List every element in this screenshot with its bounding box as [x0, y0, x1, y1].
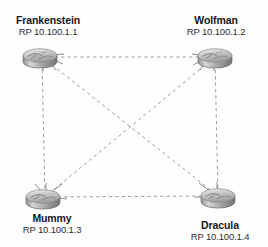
router-label-wolfman: Wolfman RP 10.100.1.2	[187, 14, 246, 38]
link-frankenstein-mummy	[42, 57, 45, 197]
link-mummy-dracula	[45, 196, 218, 197]
router-node-dracula[interactable]	[195, 181, 241, 211]
router-name-mummy: Mummy	[23, 212, 82, 224]
router-label-mummy: Mummy RP 10.100.1.3	[23, 212, 82, 236]
router-icon	[195, 181, 241, 211]
link-wolfman-mummy	[45, 57, 215, 197]
router-rp-frankenstein: RP 10.100.1.1	[16, 26, 80, 37]
router-name-frankenstein: Frankenstein	[16, 14, 80, 26]
router-node-mummy[interactable]	[22, 182, 68, 212]
router-icon	[19, 42, 65, 72]
router-icon	[192, 42, 238, 72]
router-label-dracula: Dracula RP 10.100.1.4	[191, 219, 250, 243]
router-rp-mummy: RP 10.100.1.3	[23, 224, 82, 235]
link-wolfman-dracula	[215, 57, 218, 196]
router-node-wolfman[interactable]	[192, 42, 238, 72]
router-name-dracula: Dracula	[191, 219, 250, 231]
router-name-wolfman: Wolfman	[187, 14, 246, 26]
router-node-frankenstein[interactable]	[19, 42, 65, 72]
network-topology-diagram: Frankenstein RP 10.100.1.1 Wolfman RP 10…	[0, 0, 268, 247]
router-label-frankenstein: Frankenstein RP 10.100.1.1	[16, 14, 80, 38]
router-rp-dracula: RP 10.100.1.4	[191, 231, 250, 242]
router-icon	[22, 182, 68, 212]
router-rp-wolfman: RP 10.100.1.2	[187, 26, 246, 37]
